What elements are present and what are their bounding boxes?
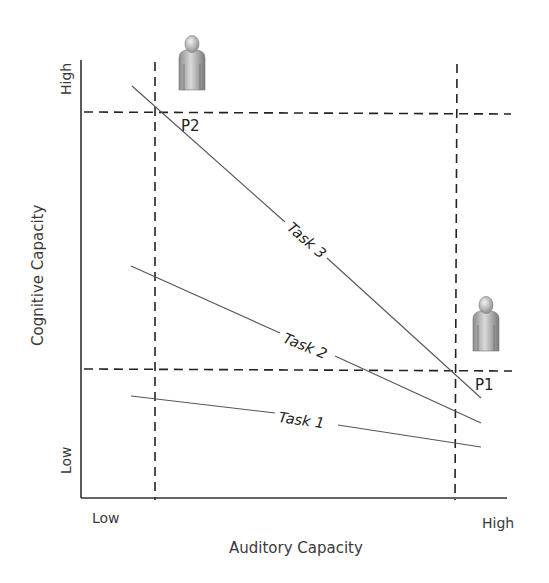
p2-horizontal-dashed-line <box>84 112 511 114</box>
task-2-label: Task 2 <box>281 330 330 362</box>
person-icon <box>179 36 205 91</box>
task-1-label: Task 1 <box>278 409 326 431</box>
x-high-label: High <box>482 515 514 531</box>
p1-label: P1 <box>475 376 494 394</box>
axes <box>81 60 507 498</box>
capacity-diagram: Task 3 Task 2 Task 1 P2 P1 Low High High… <box>0 0 549 583</box>
task-3-label: Task 3 <box>284 219 329 261</box>
p1-vertical-dashed-line <box>455 64 457 500</box>
x-low-label: Low <box>92 510 120 526</box>
p1-horizontal-dashed-line <box>84 369 512 371</box>
y-axis-title: Cognitive Capacity <box>29 205 47 346</box>
p2-label: P2 <box>181 117 200 135</box>
reference-lines <box>84 62 512 500</box>
x-axis-title: Auditory Capacity <box>229 539 363 557</box>
person-icon <box>473 297 499 352</box>
y-high-label: High <box>58 63 74 95</box>
y-low-label: Low <box>58 446 74 474</box>
